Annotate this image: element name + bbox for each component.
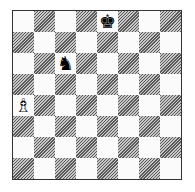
square-g6[interactable] xyxy=(139,53,160,74)
square-c3[interactable] xyxy=(55,116,76,137)
square-b1[interactable] xyxy=(34,158,55,179)
square-b4[interactable] xyxy=(34,95,55,116)
square-f3[interactable] xyxy=(118,116,139,137)
square-d3[interactable] xyxy=(76,116,97,137)
square-f5[interactable] xyxy=(118,74,139,95)
square-e4[interactable] xyxy=(97,95,118,116)
square-d4[interactable] xyxy=(76,95,97,116)
square-h3[interactable] xyxy=(160,116,181,137)
square-c8[interactable] xyxy=(55,11,76,32)
square-e8[interactable]: ♚ xyxy=(97,11,118,32)
square-g8[interactable] xyxy=(139,11,160,32)
square-h7[interactable] xyxy=(160,32,181,53)
square-b3[interactable] xyxy=(34,116,55,137)
square-b7[interactable] xyxy=(34,32,55,53)
square-a2[interactable] xyxy=(13,137,34,158)
chess-board: ♚♞♗ xyxy=(12,10,182,180)
square-e3[interactable] xyxy=(97,116,118,137)
square-e1[interactable] xyxy=(97,158,118,179)
square-b6[interactable] xyxy=(34,53,55,74)
black-knight-icon[interactable]: ♞ xyxy=(57,53,74,74)
square-d1[interactable] xyxy=(76,158,97,179)
square-f2[interactable] xyxy=(118,137,139,158)
square-a3[interactable] xyxy=(13,116,34,137)
square-b5[interactable] xyxy=(34,74,55,95)
square-b2[interactable] xyxy=(34,137,55,158)
square-c4[interactable] xyxy=(55,95,76,116)
square-c2[interactable] xyxy=(55,137,76,158)
square-c5[interactable] xyxy=(55,74,76,95)
square-e7[interactable] xyxy=(97,32,118,53)
square-c6[interactable]: ♞ xyxy=(55,53,76,74)
square-d5[interactable] xyxy=(76,74,97,95)
square-c7[interactable] xyxy=(55,32,76,53)
square-h6[interactable] xyxy=(160,53,181,74)
square-e5[interactable] xyxy=(97,74,118,95)
square-a1[interactable] xyxy=(13,158,34,179)
square-f6[interactable] xyxy=(118,53,139,74)
square-a5[interactable] xyxy=(13,74,34,95)
square-f8[interactable] xyxy=(118,11,139,32)
square-g4[interactable] xyxy=(139,95,160,116)
square-a8[interactable] xyxy=(13,11,34,32)
square-g1[interactable] xyxy=(139,158,160,179)
square-b8[interactable] xyxy=(34,11,55,32)
square-e2[interactable] xyxy=(97,137,118,158)
square-h4[interactable] xyxy=(160,95,181,116)
square-e6[interactable] xyxy=(97,53,118,74)
square-h2[interactable] xyxy=(160,137,181,158)
square-h8[interactable] xyxy=(160,11,181,32)
square-d6[interactable] xyxy=(76,53,97,74)
square-f4[interactable] xyxy=(118,95,139,116)
square-d2[interactable] xyxy=(76,137,97,158)
square-c1[interactable] xyxy=(55,158,76,179)
square-a6[interactable] xyxy=(13,53,34,74)
black-king-icon[interactable]: ♚ xyxy=(99,11,116,32)
square-g7[interactable] xyxy=(139,32,160,53)
square-h5[interactable] xyxy=(160,74,181,95)
square-g3[interactable] xyxy=(139,116,160,137)
square-d8[interactable] xyxy=(76,11,97,32)
square-g5[interactable] xyxy=(139,74,160,95)
square-g2[interactable] xyxy=(139,137,160,158)
square-f7[interactable] xyxy=(118,32,139,53)
white-bishop-icon[interactable]: ♗ xyxy=(15,95,32,116)
square-h1[interactable] xyxy=(160,158,181,179)
square-a4[interactable]: ♗ xyxy=(13,95,34,116)
square-f1[interactable] xyxy=(118,158,139,179)
square-d7[interactable] xyxy=(76,32,97,53)
square-a7[interactable] xyxy=(13,32,34,53)
